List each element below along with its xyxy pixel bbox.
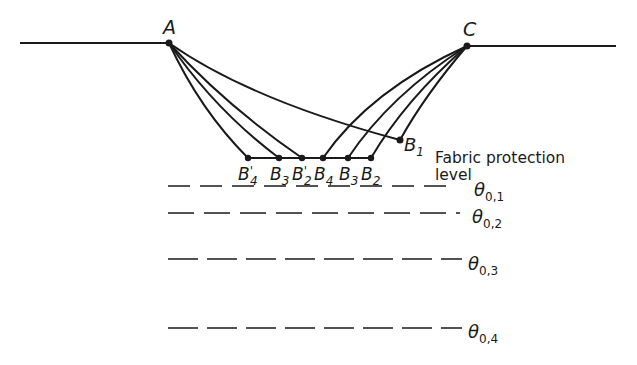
label-b2p: B'2 <box>292 164 312 188</box>
label-b1: B1 <box>404 134 424 159</box>
curve-a-b2p <box>169 43 302 158</box>
curve-c-b1 <box>400 46 467 140</box>
point-c <box>464 43 471 50</box>
label-b4p: B'4 <box>238 164 258 188</box>
diagram-canvas: A C B1 B'4 B3 B'2 B4 B3 B2 Fabric protec… <box>0 0 637 365</box>
label-c: C <box>463 18 477 40</box>
curves-from-a <box>169 43 400 158</box>
point-b3p <box>276 155 282 161</box>
curves-from-c <box>323 46 467 158</box>
point-b3 <box>345 155 351 161</box>
curve-a-b1 <box>169 43 400 140</box>
label-b2: B2 <box>361 164 380 188</box>
point-b1 <box>397 137 404 144</box>
fabric-label-line2: level <box>435 166 472 184</box>
label-a: A <box>161 16 176 38</box>
point-b4 <box>320 155 326 161</box>
label-b3p: B3 <box>270 164 289 188</box>
point-b2p <box>299 155 305 161</box>
label-b4: B4 <box>314 164 333 188</box>
level-lines <box>168 186 462 328</box>
point-a <box>166 40 173 47</box>
point-b2 <box>368 155 374 161</box>
label-b3: B3 <box>339 164 358 188</box>
theta-label-3: θ0,3 <box>468 253 498 278</box>
point-b4p <box>245 155 251 161</box>
theta-label-1: θ0,1 <box>474 179 504 204</box>
theta-label-4: θ0,4 <box>468 321 498 346</box>
fabric-label-line1: Fabric protection <box>435 149 565 167</box>
theta-label-2: θ0,2 <box>472 206 502 231</box>
